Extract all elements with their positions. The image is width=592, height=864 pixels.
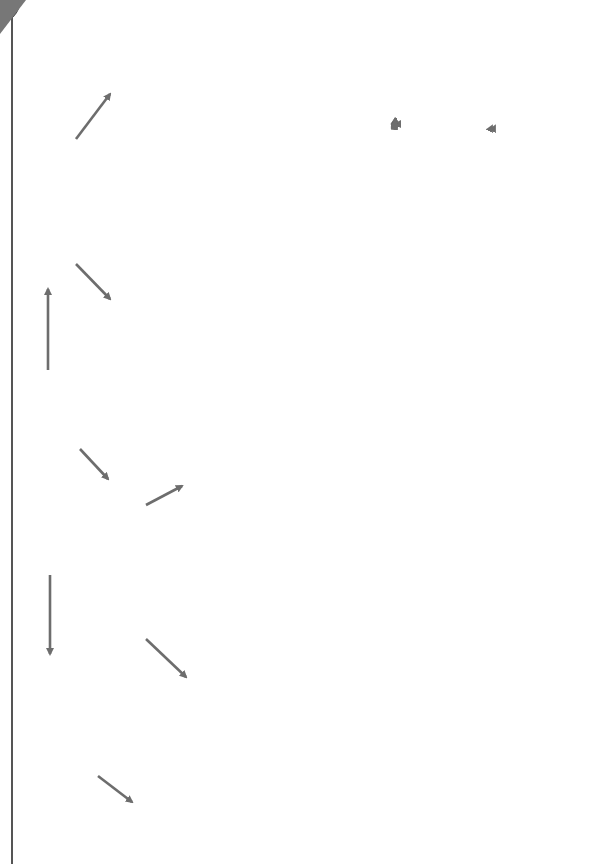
grammar-mind-map bbox=[0, 0, 592, 864]
connector-arrows bbox=[0, 0, 592, 864]
